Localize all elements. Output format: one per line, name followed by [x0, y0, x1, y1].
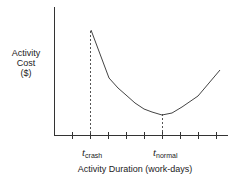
plot-area [0, 0, 239, 185]
t-crash-label: tcrash [82, 146, 102, 159]
t-normal-label: tnormal [153, 146, 177, 159]
x-axis-label: Activity Duration (work-days) [60, 164, 210, 174]
cost-curve [91, 30, 220, 115]
